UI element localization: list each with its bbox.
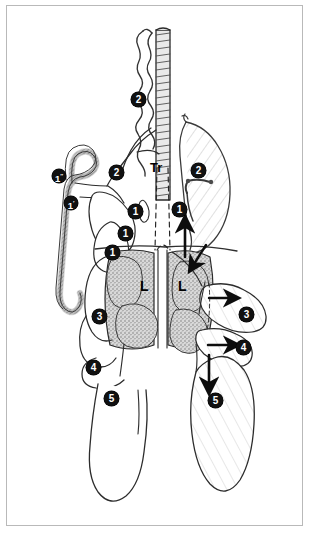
marker-caudal-thoracic-sac-4-left: 4 (86, 360, 101, 375)
abdominal-sac-right (191, 357, 255, 492)
figure-frame: Tr L L 2 1″ 1′ 2 2 1 1 1 1 3 3 4 4 5 5 (0, 0, 310, 533)
marker-abdominal-sac-5-right: 5 (208, 393, 223, 408)
lung-left (105, 250, 158, 349)
marker-cervical-sac-1-upper: 1 (118, 226, 133, 241)
lung-left-label: L (140, 278, 149, 294)
marker-cervical-sac-1-prime: 1′ (64, 196, 78, 210)
marker-clavicular-sac-2-cranial: 2 (131, 92, 146, 107)
marker-cranial-thoracic-sac-3-right: 3 (239, 307, 254, 322)
anatomy-diagram (0, 0, 310, 533)
marker-abdominal-sac-5-left: 5 (104, 391, 119, 406)
clavicular-air-sac-right (180, 114, 230, 254)
marker-cervical-sac-1-dprime: 1″ (52, 169, 66, 183)
marker-cranial-thoracic-sac-3-left: 3 (92, 309, 107, 324)
marker-caudal-thoracic-sac-4-right: 4 (236, 340, 251, 355)
marker-clavicular-sac-2-left: 2 (109, 165, 124, 180)
marker-cervical-sac-1-rightmid: 1 (172, 202, 187, 217)
lung-right-label: L (178, 278, 187, 294)
trachea-label: Tr (150, 160, 162, 175)
marker-cervical-sac-1-leftmid: 1 (128, 204, 143, 219)
marker-cervical-sac-1-lower: 1 (105, 245, 120, 260)
marker-clavicular-sac-2-right: 2 (191, 163, 206, 178)
